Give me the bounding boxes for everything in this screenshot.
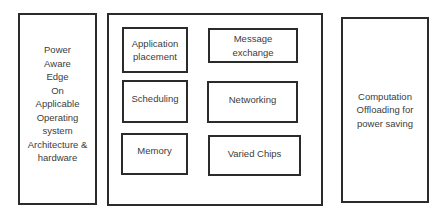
label-line: Networking: [209, 93, 296, 107]
networking-label: Networking: [209, 93, 296, 107]
label-line: system: [20, 124, 95, 138]
networking-box: Networking: [207, 81, 298, 123]
message-exchange-label: Message exchange: [232, 32, 273, 59]
computation-offloading-box: Computation Offloading for power saving: [341, 17, 429, 203]
label-line: placement: [132, 50, 178, 64]
label-line: Varied Chips: [210, 147, 299, 161]
label-line: Memory: [123, 144, 186, 158]
power-aware-edge-label: Power Aware Edge On Applicable Operating…: [20, 43, 95, 165]
label-line: Architecture &: [20, 138, 95, 152]
label-line: On: [20, 84, 95, 98]
label-line: Message: [232, 32, 273, 46]
varied-chips-label: Varied Chips: [210, 147, 299, 161]
label-line: Scheduling: [124, 92, 186, 106]
power-aware-edge-box: Power Aware Edge On Applicable Operating…: [18, 13, 97, 205]
scheduling-label: Scheduling: [124, 92, 186, 106]
label-line: Offloading for: [357, 103, 414, 117]
label-line: Power: [20, 43, 95, 57]
application-placement-box: Application placement: [122, 27, 188, 73]
label-line: Operating: [20, 111, 95, 125]
memory-box: Memory: [121, 133, 188, 175]
varied-chips-box: Varied Chips: [208, 135, 301, 176]
label-line: Aware: [20, 57, 95, 71]
memory-label: Memory: [123, 144, 186, 158]
scheduling-box: Scheduling: [122, 80, 188, 123]
label-line: power saving: [357, 117, 414, 131]
label-line: hardware: [20, 151, 95, 165]
label-line: exchange: [232, 46, 273, 60]
label-line: Edge: [20, 70, 95, 84]
label-line: Computation: [357, 90, 414, 104]
label-line: Applicable: [20, 97, 95, 111]
computation-offloading-label: Computation Offloading for power saving: [357, 90, 414, 131]
label-line: Application: [132, 37, 178, 51]
message-exchange-box: Message exchange: [208, 28, 298, 63]
application-placement-label: Application placement: [132, 37, 178, 64]
